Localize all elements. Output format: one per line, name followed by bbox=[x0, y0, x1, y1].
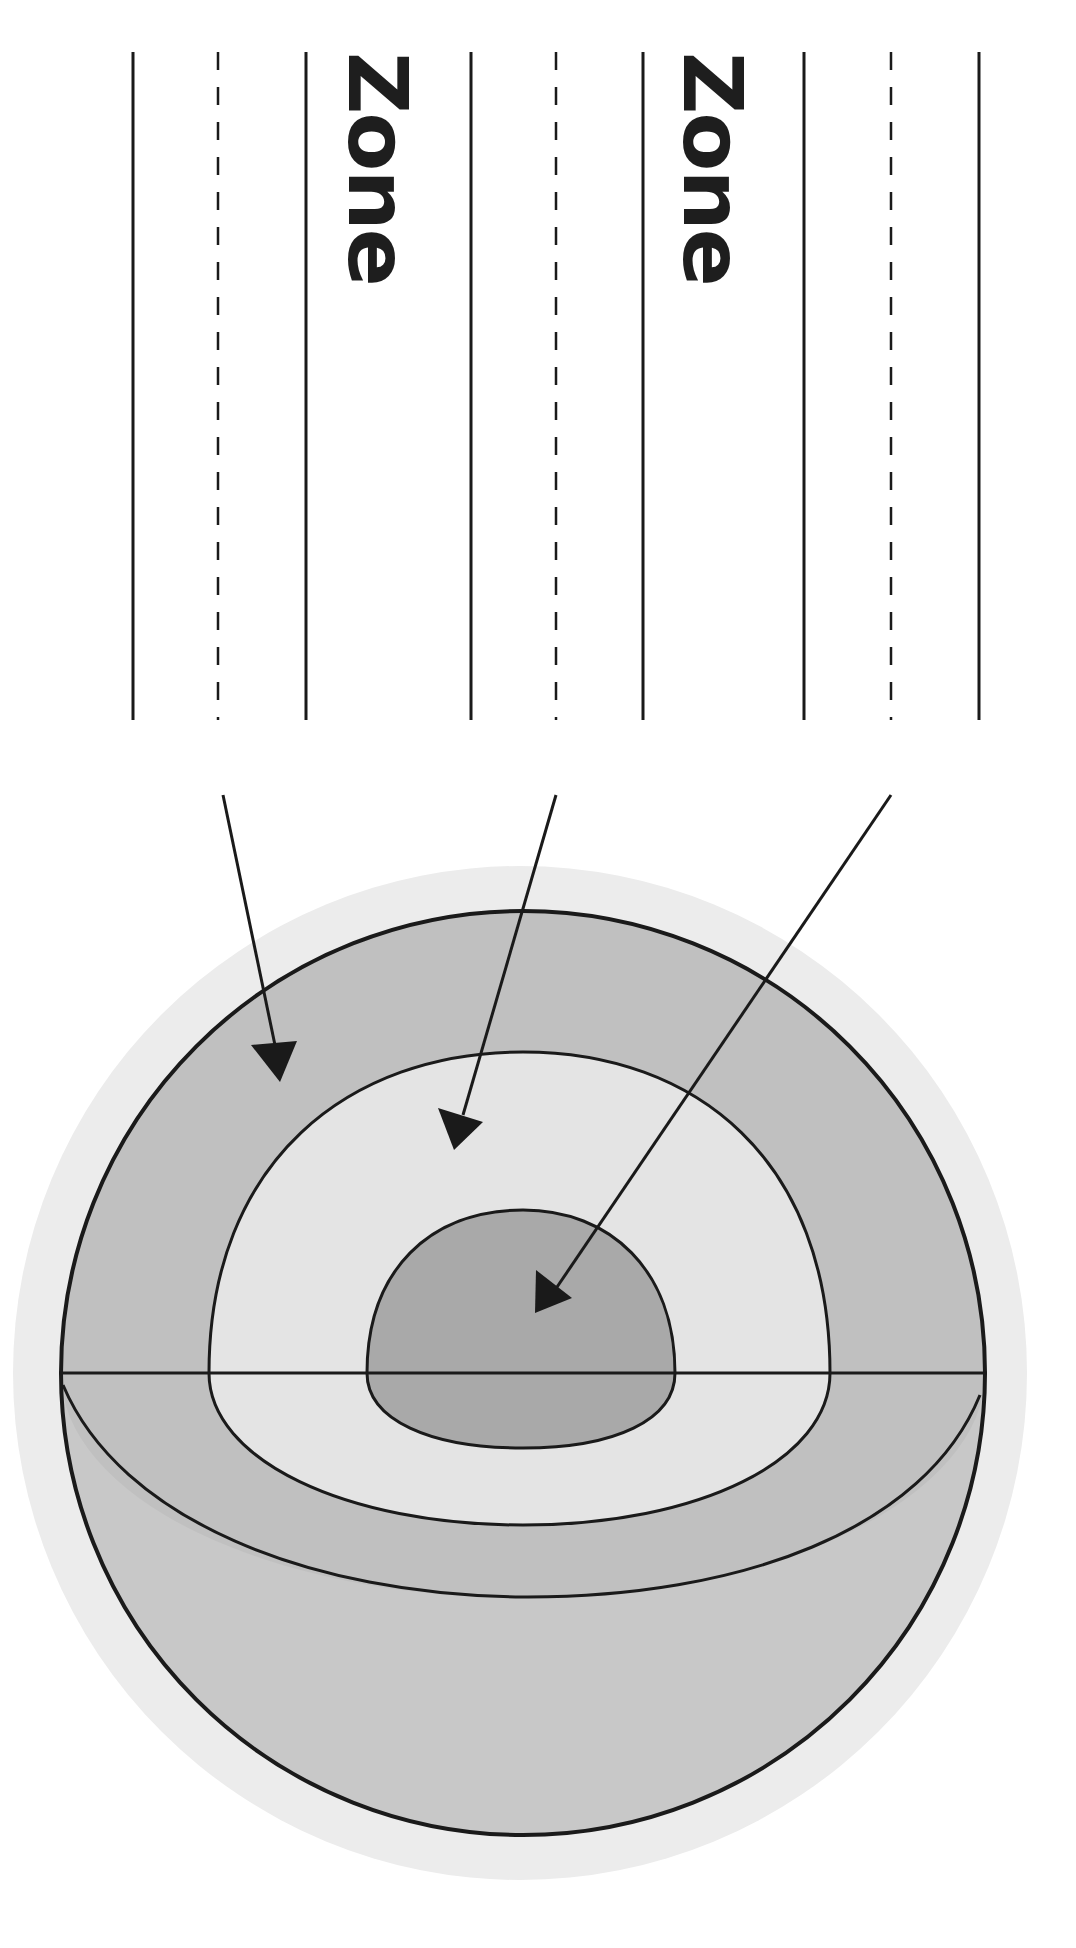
zone-label-1: Zone bbox=[336, 52, 418, 285]
answer-lines-group-1 bbox=[133, 52, 306, 720]
zone-label-2: Zone bbox=[671, 52, 753, 285]
sphere-zones-diagram bbox=[0, 0, 1076, 1948]
answer-lines-group-3 bbox=[804, 52, 979, 720]
answer-lines-group-2 bbox=[471, 52, 643, 720]
